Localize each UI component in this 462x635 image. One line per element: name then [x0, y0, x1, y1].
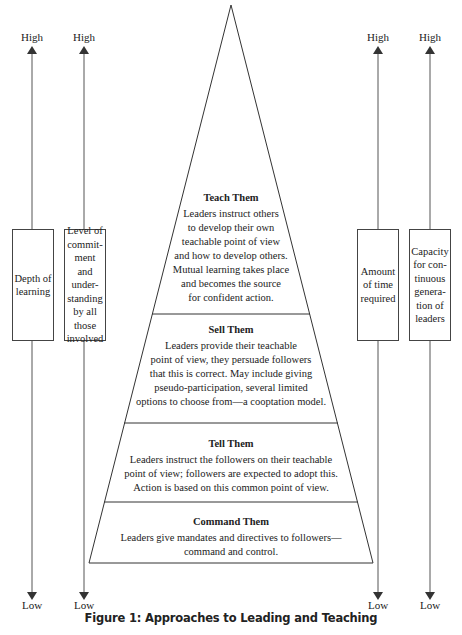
axis-1-box: Depth of learning: [12, 229, 54, 341]
tier-title: Command Them: [91, 515, 371, 529]
axis-2-box: Level of commit- ment and under- standin…: [64, 229, 106, 341]
tier-title: Sell Them: [111, 323, 351, 337]
tier-teach-them: Teach Them Leaders instruct others to de…: [131, 191, 331, 305]
tier-title: Teach Them: [131, 191, 331, 205]
axis-3-box: Amount of time required: [357, 229, 399, 341]
tier-sell-them: Sell Them Leaders provide their teachabl…: [111, 323, 351, 409]
axis-4-box: Capacity for con- tinuous genera- tion o…: [409, 229, 451, 341]
axis-2-high-label: High: [64, 31, 104, 43]
axis-4-box-text: Capacity for con- tinuous genera- tion o…: [411, 245, 448, 326]
tier-command-them: Command Them Leaders give mandates and d…: [91, 515, 371, 559]
axis-3-box-text: Amount of time required: [361, 265, 396, 306]
axis-1-high-label: High: [12, 31, 52, 43]
axis-3-high-label: High: [358, 31, 398, 43]
tier-title: Tell Them: [96, 437, 366, 451]
figure-caption: Figure 1: Approaches to Leading and Teac…: [18, 610, 443, 625]
tier-tell-them: Tell Them Leaders instruct the followers…: [96, 437, 366, 495]
axis-4-high-label: High: [410, 31, 450, 43]
axis-2-box-text: Level of commit- ment and under- standin…: [66, 224, 104, 346]
axis-1-box-text: Depth of learning: [14, 272, 51, 299]
